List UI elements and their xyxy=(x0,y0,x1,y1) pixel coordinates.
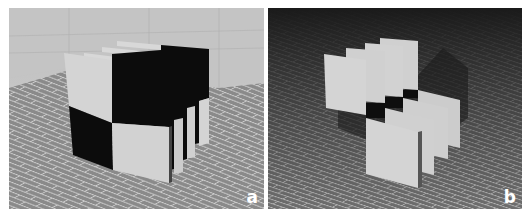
rendered-scene-a: . xyxy=(9,8,264,209)
panel-label-a: a xyxy=(247,189,258,206)
figure-panel-a: . a xyxy=(9,8,264,209)
figure-panel-b: b xyxy=(268,8,522,209)
rendered-scene-b xyxy=(268,8,522,209)
panel-label-b: b xyxy=(504,189,516,206)
